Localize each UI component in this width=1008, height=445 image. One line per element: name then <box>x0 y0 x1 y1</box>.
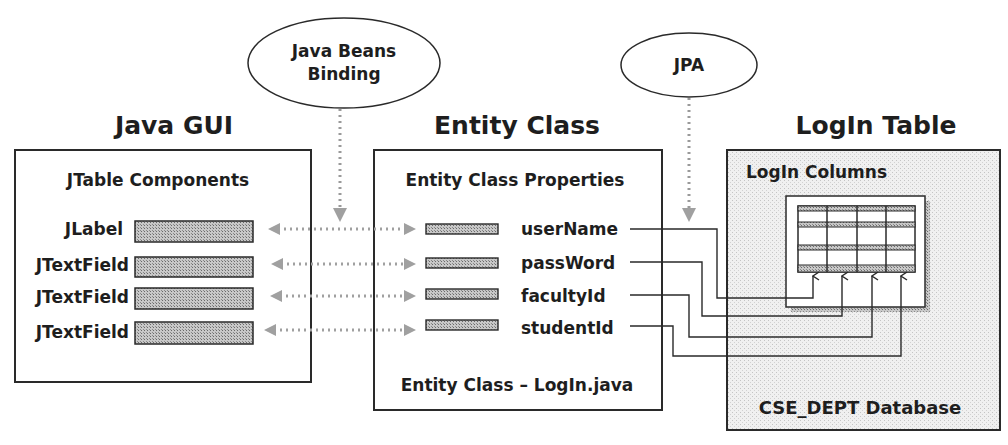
table-grid <box>798 206 915 272</box>
property-bar <box>426 289 498 299</box>
component-label: JLabel <box>64 219 123 239</box>
entity-box-title: Entity Class Properties <box>406 170 625 190</box>
property-bar <box>426 224 498 234</box>
java-gui-box: JTable Components JLabel JTextField JTex… <box>15 150 311 382</box>
diagram-canvas: Java Beans Binding JPA Java GUI Entity C… <box>0 0 1008 445</box>
entity-box-footer: Entity Class – LogIn.java <box>401 375 634 395</box>
database-name: CSE_DEPT Database <box>759 397 962 418</box>
login-columns-title: LogIn Columns <box>746 162 887 182</box>
property-password: passWord <box>521 253 615 273</box>
entity-class-box: Entity Class Properties userName passWor… <box>374 150 662 410</box>
property-facultyid: facultyId <box>521 286 606 306</box>
jtextfield-1 <box>135 257 253 277</box>
property-bar <box>426 258 498 268</box>
heading-entity-class: Entity Class <box>434 111 600 140</box>
jpa-label: JPA <box>673 55 705 75</box>
gui-box-title: JTable Components <box>66 170 249 190</box>
jtextfield-3 <box>135 322 253 344</box>
binding-down-arrow <box>333 109 347 222</box>
jpa-down-arrow <box>682 98 696 222</box>
property-username: userName <box>521 219 618 239</box>
binding-label-line1: Java Beans <box>291 41 396 61</box>
jlabel-field <box>135 221 253 242</box>
property-bar <box>426 320 498 330</box>
jtextfield-2 <box>135 288 253 309</box>
component-label: JTextField <box>35 287 129 307</box>
binding-label-line2: Binding <box>307 64 380 84</box>
component-label: JTextField <box>35 255 129 275</box>
component-label: JTextField <box>35 322 129 342</box>
login-table-box: LogIn Columns CSE_DEPT Database <box>727 150 1000 430</box>
property-studentid: studentId <box>521 318 614 338</box>
heading-login-table: LogIn Table <box>796 111 957 140</box>
jpa-ellipse: JPA <box>621 33 757 97</box>
heading-java-gui: Java GUI <box>113 111 233 140</box>
java-beans-binding-ellipse: Java Beans Binding <box>248 18 440 108</box>
